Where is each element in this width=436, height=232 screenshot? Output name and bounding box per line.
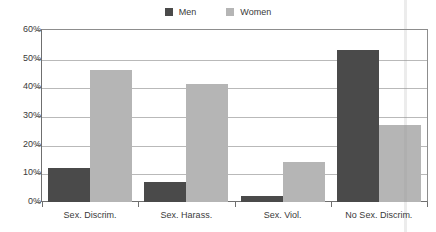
bar-group [331,30,427,202]
x-tick-mark-0 [42,202,43,207]
x-tick-label-3: No Sex. Discrim. [345,210,412,221]
bar-men[interactable] [144,182,186,202]
bars-layer [42,30,428,202]
legend-item-women[interactable]: Women [226,7,271,17]
x-tick-mark-4 [427,202,428,207]
x-tick-mark-2 [235,202,236,207]
bar-women[interactable] [90,70,132,202]
y-axis: 0%10%20%30%40%50%60% [0,0,41,232]
bar-group [138,30,234,202]
x-tick-label-0: Sex. Discrim. [64,210,117,221]
x-tick-mark-3 [331,202,332,207]
x-tick-mark-1 [138,202,139,207]
legend-item-men[interactable]: Men [165,7,197,17]
bar-women[interactable] [186,84,228,202]
legend-swatch-men [165,8,173,16]
bar-group [42,30,138,202]
bar-men[interactable] [241,196,283,202]
legend-swatch-women [226,8,234,16]
x-tick-label-2: Sex. Viol. [264,210,302,221]
x-tick-label-1: Sex. Harass. [161,210,213,221]
bar-group [235,30,331,202]
chart-legend: MenWomen [0,3,436,21]
bar-men[interactable] [337,50,379,202]
bar-chart: MenWomen 0%10%20%30%40%50%60% Sex. Discr… [0,0,436,232]
legend-label-men: Men [179,7,197,17]
bar-men[interactable] [48,168,90,202]
bar-women[interactable] [379,125,421,202]
legend-label-women: Women [240,7,271,17]
y-tick-mark-0 [36,202,41,203]
bar-women[interactable] [283,162,325,202]
